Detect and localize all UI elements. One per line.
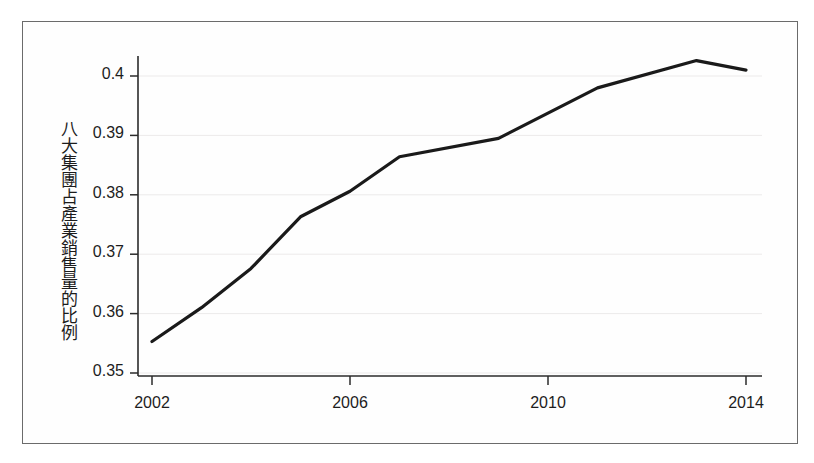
y-tick-label: 0.4 [78, 65, 124, 83]
data-series-line [152, 61, 746, 342]
y-tick-label: 0.35 [78, 362, 124, 380]
y-tick-label: 0.37 [78, 243, 124, 261]
x-tick-label: 2002 [122, 394, 182, 412]
x-tick-marks [152, 376, 746, 385]
x-tick-label: 2006 [320, 394, 380, 412]
y-tick-label: 0.39 [78, 124, 124, 142]
y-tick-label: 0.38 [78, 184, 124, 202]
y-tick-marks [130, 76, 138, 373]
y-tick-label: 0.36 [78, 303, 124, 321]
chart-plot-area: 八大集團占產業銷售量的比例 0.40.390.380.370.360.35 20… [0, 0, 814, 463]
x-tick-label: 2014 [716, 394, 776, 412]
axes-group [138, 56, 762, 376]
gridlines-group [138, 76, 762, 373]
x-tick-label: 2010 [518, 394, 578, 412]
chart-page: 八大集團占產業銷售量的比例 0.40.390.380.370.360.35 20… [0, 0, 814, 463]
